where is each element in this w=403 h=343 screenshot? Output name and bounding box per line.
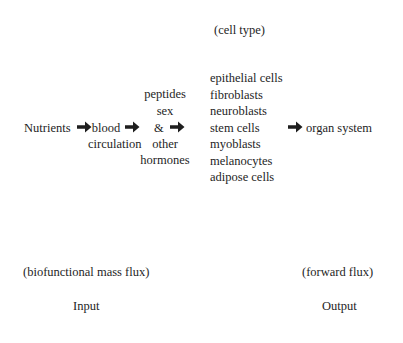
ampersand-label: & (154, 121, 164, 135)
hormones-line-sex: sex (137, 104, 193, 118)
cell-type-item: adipose cells (210, 170, 283, 187)
cell-type-item: neuroblasts (210, 104, 283, 121)
blood-label: blood (92, 121, 120, 135)
hormones-line-other: other (137, 137, 193, 151)
cell-type-item: melanocytes (210, 154, 283, 171)
nutrients-row: Nutrients blood (24, 121, 140, 135)
cell-type-heading: (cell type) (214, 23, 265, 37)
output-label: Output (322, 299, 357, 313)
hormones-line-peptides: peptides (137, 87, 193, 101)
hormones-line-hormones: hormones (137, 153, 193, 167)
arrow-right-icon (170, 121, 185, 133)
organ-system-row: organ system (288, 121, 372, 135)
cell-type-item: stem cells (210, 121, 283, 138)
circulation-label: circulation (88, 137, 141, 151)
arrow-right-icon (125, 121, 140, 133)
arrow-right-icon (77, 121, 92, 133)
nutrients-label: Nutrients (24, 121, 71, 135)
cell-type-item: fibroblasts (210, 88, 283, 105)
cell-type-item: myoblasts (210, 137, 283, 154)
organ-system-label: organ system (306, 121, 372, 135)
input-caption: (biofunctional mass flux) (23, 265, 149, 279)
cell-type-list: epithelial cells fibroblasts neuroblasts… (210, 71, 283, 187)
output-caption: (forward flux) (302, 265, 373, 279)
hormones-line-and: & (154, 121, 185, 135)
arrow-right-icon (288, 121, 303, 133)
input-label: Input (73, 299, 99, 313)
cell-type-item: epithelial cells (210, 71, 283, 88)
